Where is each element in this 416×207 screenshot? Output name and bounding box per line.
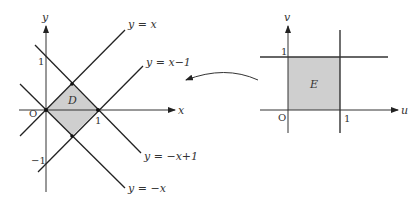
label-y-eq-neg-x: y = −x [127,182,167,195]
point-bottom [70,134,74,138]
point-top [70,82,74,86]
diagram-canvas: y x O 1 −1 1 D y = x y = x−1 y = −x+1 y … [0,0,416,207]
v-axis-label: v [284,11,291,24]
y-axis-label: y [41,11,49,24]
x-axis-label: x [178,104,185,117]
u-axis-label: u [401,104,408,117]
right-diagram: v u O 1 1 E [260,11,408,133]
mapping-arrow [186,73,258,81]
region-d-label: D [67,94,77,107]
origin-point [44,108,48,112]
line-y-eq-x-minus-1 [38,66,143,172]
label-y-eq-x: y = x [127,18,157,31]
region-e-label: E [309,78,318,91]
x-tick-1: 1 [95,115,101,126]
label-y-eq-x-minus-1: y = x−1 [145,56,191,69]
origin-label: O [29,108,37,119]
line-y-eq-neg-x-plus-1 [35,45,141,153]
origin-label-right: O [278,112,286,123]
v-tick-1: 1 [281,46,287,57]
y-tick-neg-1: −1 [31,155,46,166]
label-y-eq-neg-x-plus-1: y = −x+1 [143,150,198,163]
left-diagram: y x O 1 −1 1 D y = x y = x−1 y = −x+1 y … [19,11,198,195]
y-tick-1: 1 [38,56,44,67]
u-tick-1: 1 [344,113,350,124]
point-1-0 [96,108,100,112]
